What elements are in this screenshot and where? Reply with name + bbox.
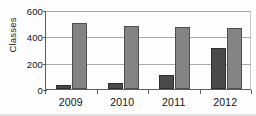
x-tick-mark-2 — [148, 90, 149, 94]
y-axis-ticks: 0200400600 — [0, 11, 43, 90]
bar-chart: Classes 0200400600 2009201020112012 — [0, 0, 256, 116]
x-tick-label-2012: 2012 — [198, 96, 252, 108]
bar-2011-series-2 — [175, 27, 190, 89]
x-tick-label-2010: 2010 — [95, 96, 149, 108]
bar-2010-series-1 — [108, 83, 123, 89]
x-tick-label-2009: 2009 — [44, 96, 98, 108]
bar-2010-series-2 — [124, 26, 139, 89]
bar-group-2012 — [201, 11, 253, 89]
x-tick-mark-1 — [97, 90, 98, 94]
bar-2009-series-2 — [72, 23, 87, 89]
bar-2011-series-1 — [159, 75, 174, 89]
bar-group-2009 — [46, 11, 98, 89]
x-tick-mark-3 — [200, 90, 201, 94]
x-tick-mark-4 — [251, 90, 252, 94]
y-tick-label-600: 600 — [3, 6, 43, 17]
bar-group-2010 — [98, 11, 150, 89]
y-tick-label-200: 200 — [3, 58, 43, 69]
x-tick-mark-0 — [45, 90, 46, 94]
bar-group-2011 — [149, 11, 201, 89]
y-tick-label-400: 400 — [3, 32, 43, 43]
bar-2012-series-2 — [227, 28, 242, 89]
x-axis: 2009201020112012 — [45, 90, 251, 116]
y-tick-label-0: 0 — [3, 85, 43, 96]
bar-2009-series-1 — [56, 85, 71, 89]
bottom-rule — [0, 114, 256, 116]
plot-area — [45, 11, 251, 90]
bar-2012-series-1 — [211, 48, 226, 89]
x-tick-label-2011: 2011 — [147, 96, 201, 108]
